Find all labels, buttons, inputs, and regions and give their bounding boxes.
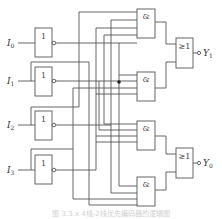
inverted-wires bbox=[56, 20, 137, 193]
and-gate-4: & bbox=[137, 177, 155, 206]
junction-dot bbox=[117, 80, 121, 84]
svg-text:&: & bbox=[142, 124, 149, 133]
and-gate-1: & bbox=[137, 9, 155, 38]
svg-text:≥1: ≥1 bbox=[179, 42, 191, 51]
figure-caption: 图 3.3.x 4线-2线优先编码器的逻辑图 bbox=[52, 209, 169, 218]
svg-text:1: 1 bbox=[41, 115, 46, 124]
or-gate-y1: ≥1 bbox=[176, 38, 201, 68]
and-to-or-wires bbox=[155, 22, 176, 190]
not-gate-i0: 1 bbox=[35, 28, 56, 57]
or-gate-y0: ≥1 bbox=[176, 148, 201, 178]
svg-text:&: & bbox=[142, 12, 149, 21]
and-gate-3: & bbox=[137, 121, 155, 150]
svg-text:1: 1 bbox=[41, 32, 46, 41]
svg-text:1: 1 bbox=[41, 71, 46, 80]
input-label-i3: I3 bbox=[6, 165, 15, 176]
input-label-i2: I2 bbox=[6, 120, 15, 131]
svg-text:1: 1 bbox=[41, 159, 46, 168]
output-label-y0: Y0 bbox=[203, 158, 213, 169]
input-label-i0: I0 bbox=[6, 38, 15, 49]
logic-diagram: 1 1 1 1 & bbox=[0, 0, 222, 219]
and-gate-2: & bbox=[137, 72, 155, 101]
svg-text:&: & bbox=[142, 180, 149, 189]
not-gate-i3: 1 bbox=[35, 155, 56, 184]
not-gate-i1: 1 bbox=[35, 67, 56, 96]
svg-text:&: & bbox=[142, 75, 149, 84]
output-label-y1: Y1 bbox=[203, 48, 213, 59]
svg-text:≥1: ≥1 bbox=[179, 152, 191, 161]
input-label-i1: I1 bbox=[6, 76, 14, 87]
not-gate-i2: 1 bbox=[35, 111, 56, 140]
